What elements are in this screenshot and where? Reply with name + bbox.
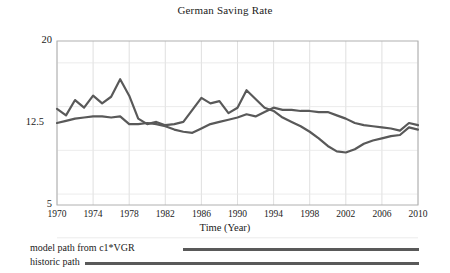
chart-figure: German Saving Rate 20 12.5 5 19701974197… xyxy=(0,0,450,273)
legend-line-swatch xyxy=(183,248,419,251)
x-tick-label: 1986 xyxy=(181,209,221,219)
y-tick-label: 20 xyxy=(12,34,52,45)
y-tick-label: 12.5 xyxy=(4,116,44,127)
legend-label: historic path xyxy=(30,256,80,267)
x-tick-label: 1974 xyxy=(73,209,113,219)
legend-line-swatch xyxy=(85,262,419,265)
x-tick-label: 1994 xyxy=(254,209,294,219)
chart-legend: model path from c1*VGR historic path xyxy=(0,240,450,273)
x-tick-label: 1978 xyxy=(109,209,149,219)
x-tick-label: 1998 xyxy=(290,209,330,219)
x-tick-label: 1970 xyxy=(37,209,77,219)
x-tick-label: 1982 xyxy=(145,209,185,219)
legend-item-model-path: model path from c1*VGR xyxy=(0,242,450,256)
legend-item-historic-path: historic path xyxy=(0,256,450,270)
x-tick-label: 2002 xyxy=(326,209,366,219)
x-tick-label: 2010 xyxy=(398,209,438,219)
legend-label: model path from c1*VGR xyxy=(30,242,135,253)
x-tick-label: 1990 xyxy=(218,209,258,219)
x-axis-label: Time (Year) xyxy=(0,222,450,233)
x-tick-label: 2006 xyxy=(362,209,402,219)
y-tick-label: 5 xyxy=(12,198,52,209)
